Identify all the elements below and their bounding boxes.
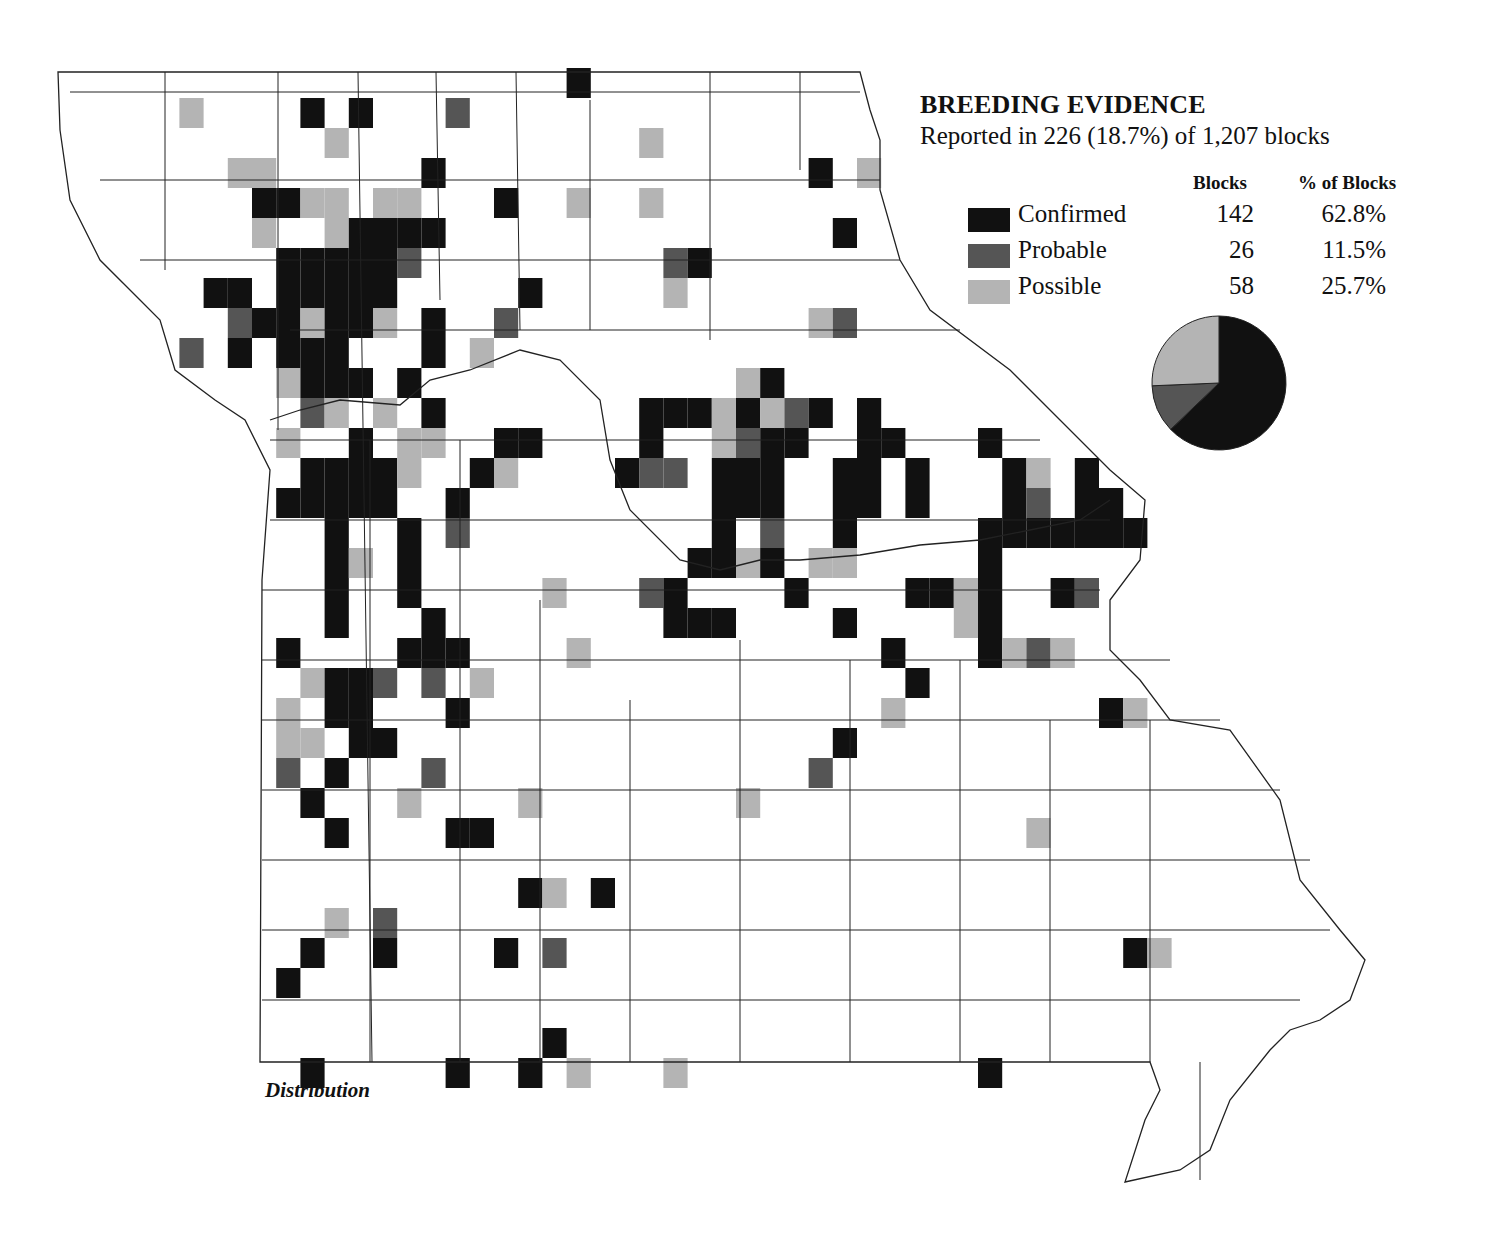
- block-confirmed: [421, 398, 445, 428]
- block-confirmed: [421, 338, 445, 368]
- block-possible: [397, 458, 421, 488]
- block-confirmed: [736, 488, 760, 518]
- block-possible: [300, 728, 324, 758]
- block-confirmed: [542, 1028, 566, 1058]
- legend: BREEDING EVIDENCE Reported in 226 (18.7%…: [920, 90, 1440, 152]
- block-confirmed: [349, 308, 373, 338]
- legend-pct: 11.5%: [1268, 236, 1386, 264]
- block-confirmed: [857, 458, 881, 488]
- block-possible: [809, 308, 833, 338]
- block-probable: [373, 908, 397, 938]
- block-confirmed: [300, 278, 324, 308]
- possible-swatch: [968, 280, 1010, 304]
- block-possible: [712, 398, 736, 428]
- block-confirmed: [228, 278, 252, 308]
- block-probable: [300, 398, 324, 428]
- block-confirmed: [300, 788, 324, 818]
- block-possible: [397, 188, 421, 218]
- block-probable: [1075, 578, 1099, 608]
- block-possible: [518, 788, 542, 818]
- block-confirmed: [446, 638, 470, 668]
- block-confirmed: [349, 668, 373, 698]
- block-possible: [1123, 698, 1147, 728]
- block-confirmed: [760, 368, 784, 398]
- block-confirmed: [978, 638, 1002, 668]
- block-confirmed: [784, 578, 808, 608]
- block-confirmed: [518, 278, 542, 308]
- block-confirmed: [1075, 458, 1099, 488]
- block-confirmed: [518, 878, 542, 908]
- block-confirmed: [1075, 488, 1099, 518]
- block-confirmed: [276, 968, 300, 998]
- block-confirmed: [349, 458, 373, 488]
- block-possible: [349, 548, 373, 578]
- block-possible: [542, 878, 566, 908]
- block-probable: [542, 938, 566, 968]
- block-confirmed: [736, 458, 760, 488]
- block-confirmed: [833, 458, 857, 488]
- block-possible: [252, 218, 276, 248]
- block-probable: [639, 458, 663, 488]
- block-confirmed: [857, 398, 881, 428]
- legend-label: Confirmed: [1018, 200, 1126, 228]
- block-confirmed: [978, 608, 1002, 638]
- block-confirmed: [663, 578, 687, 608]
- block-confirmed: [688, 248, 712, 278]
- block-probable: [663, 458, 687, 488]
- block-confirmed: [373, 458, 397, 488]
- block-confirmed: [325, 668, 349, 698]
- block-possible: [712, 428, 736, 458]
- block-confirmed: [905, 578, 929, 608]
- block-confirmed: [325, 488, 349, 518]
- block-confirmed: [373, 728, 397, 758]
- block-possible: [954, 578, 978, 608]
- block-confirmed: [760, 428, 784, 458]
- block-confirmed: [494, 188, 518, 218]
- block-possible: [470, 338, 494, 368]
- block-confirmed: [688, 608, 712, 638]
- block-probable: [446, 98, 470, 128]
- block-probable: [784, 398, 808, 428]
- block-confirmed: [300, 338, 324, 368]
- block-possible: [276, 698, 300, 728]
- block-confirmed: [373, 218, 397, 248]
- block-confirmed: [736, 398, 760, 428]
- block-confirmed: [663, 398, 687, 428]
- block-confirmed: [397, 548, 421, 578]
- block-possible: [663, 278, 687, 308]
- block-possible: [1002, 638, 1026, 668]
- block-confirmed: [228, 338, 252, 368]
- block-probable: [1026, 488, 1050, 518]
- confirmed-swatch: [968, 208, 1010, 232]
- block-confirmed: [421, 608, 445, 638]
- header-blocks: Blocks: [1193, 172, 1247, 194]
- block-probable: [421, 668, 445, 698]
- block-confirmed: [276, 248, 300, 278]
- block-possible: [954, 608, 978, 638]
- block-confirmed: [470, 818, 494, 848]
- block-confirmed: [857, 428, 881, 458]
- block-confirmed: [446, 488, 470, 518]
- block-possible: [325, 188, 349, 218]
- block-confirmed: [349, 728, 373, 758]
- block-confirmed: [397, 518, 421, 548]
- block-confirmed: [421, 308, 445, 338]
- block-confirmed: [349, 698, 373, 728]
- block-probable: [809, 758, 833, 788]
- block-confirmed: [325, 818, 349, 848]
- block-probable: [1026, 638, 1050, 668]
- block-probable: [179, 338, 203, 368]
- block-confirmed: [252, 188, 276, 218]
- block-confirmed: [591, 878, 615, 908]
- block-possible: [300, 308, 324, 338]
- block-possible: [881, 698, 905, 728]
- block-confirmed: [421, 218, 445, 248]
- block-confirmed: [276, 488, 300, 518]
- block-confirmed: [276, 188, 300, 218]
- block-possible: [325, 908, 349, 938]
- block-confirmed: [276, 638, 300, 668]
- block-confirmed: [905, 488, 929, 518]
- block-probable: [397, 248, 421, 278]
- block-possible: [736, 368, 760, 398]
- block-confirmed: [373, 248, 397, 278]
